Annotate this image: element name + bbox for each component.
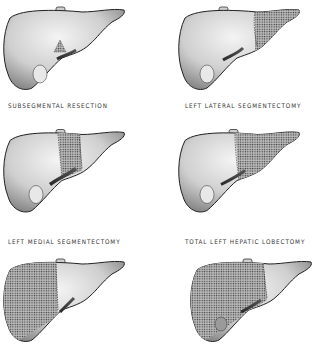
panel-right-lobectomy: [0, 252, 157, 326]
panel-total-left: TOTAL LEFT HEPATIC LOBECTOMY: [157, 118, 314, 238]
liver-illustration: [2, 4, 132, 99]
liver-illustration: [2, 256, 132, 346]
caption: TOTAL LEFT HEPATIC LOBECTOMY: [185, 238, 305, 245]
panel-subsegmental: SUBSEGMENTAL RESECTION: [0, 0, 157, 110]
caption: LEFT MEDIAL SEGMENTECTOMY: [8, 238, 121, 245]
panel-extended-right: [157, 252, 314, 326]
caption: LEFT LATERAL SEGMENTECTOMY: [185, 102, 301, 109]
liver-illustration: [177, 124, 307, 224]
panel-left-medial: LEFT MEDIAL SEGMENTECTOMY: [0, 118, 157, 238]
liver-illustration: [189, 256, 319, 346]
panel-left-lateral: LEFT LATERAL SEGMENTECTOMY: [157, 0, 314, 110]
liver-illustration: [177, 4, 307, 99]
liver-illustration: [2, 124, 132, 224]
caption: SUBSEGMENTAL RESECTION: [8, 102, 108, 109]
